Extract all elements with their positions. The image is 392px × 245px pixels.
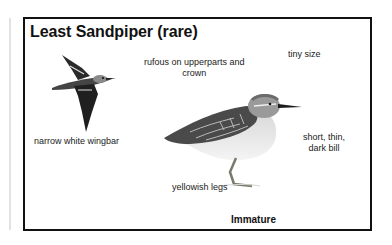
flying-sandpiper-illustration xyxy=(48,50,118,135)
plate-caption: Immature xyxy=(231,214,276,225)
label-bill-line1: short, thin, xyxy=(303,132,345,143)
page-margin-rule xyxy=(9,18,11,230)
label-upperparts-line2: crown xyxy=(144,68,245,79)
plate-title: Least Sandpiper (rare) xyxy=(30,23,198,41)
label-bill: short, thin, dark bill xyxy=(303,132,345,154)
label-legs: yellowish legs xyxy=(172,182,228,193)
label-wingbar: narrow white wingbar xyxy=(34,136,119,147)
standing-sandpiper-illustration xyxy=(160,86,310,190)
label-upperparts: rufous on upperparts and crown xyxy=(144,57,245,79)
label-upperparts-line1: rufous on upperparts and xyxy=(144,57,245,68)
label-bill-line2: dark bill xyxy=(303,143,345,154)
label-size: tiny size xyxy=(288,49,321,60)
